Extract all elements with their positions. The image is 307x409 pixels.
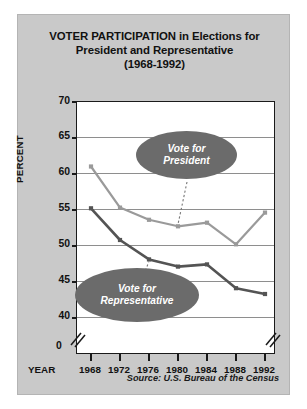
callout-president-line-2: President — [163, 155, 209, 166]
chart-page: VOTER PARTICIPATION in Elections for Pre… — [0, 0, 307, 409]
callout-representative-line-2: Representative — [100, 295, 173, 306]
callout-representative-line-1: Vote for — [118, 283, 156, 294]
axis-break-left-2 — [75, 335, 85, 347]
axis-break-right-2 — [270, 335, 280, 347]
callout-representative-text: Vote for Representative — [100, 283, 173, 307]
callout-president-text: Vote for President — [163, 143, 209, 167]
axis-break-left-1 — [71, 333, 81, 345]
callout-vote-for-president: Vote for President — [136, 131, 237, 179]
axis-break-layer — [18, 15, 291, 396]
axis-break-right-1 — [266, 333, 276, 345]
callout-vote-for-representative: Vote for Representative — [75, 268, 199, 322]
chart-source: Source: U.S. Bureau of the Census — [127, 373, 279, 383]
callout-president-line-1: Vote for — [167, 143, 205, 154]
chart-card: VOTER PARTICIPATION in Elections for Pre… — [17, 14, 290, 395]
